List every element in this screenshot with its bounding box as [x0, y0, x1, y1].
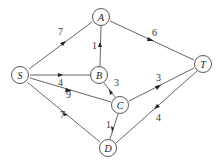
weight-t-d: 4: [156, 112, 161, 123]
node-s: S: [12, 67, 29, 84]
weight-c-d: 1: [106, 119, 111, 130]
edges: 7 4 9 7 1 6 3 1 3 4: [27, 21, 197, 143]
network-diagram: 7 4 9 7 1 6 3 1 3 4: [0, 0, 221, 161]
weight-s-d: 7: [60, 109, 65, 120]
weight-a-t: 6: [152, 27, 157, 38]
node-a: A: [93, 9, 110, 26]
node-label-c: C: [117, 100, 124, 111]
edge-c-t: [129, 68, 194, 101]
node-d: D: [100, 140, 117, 157]
weight-s-c: 9: [66, 89, 71, 100]
node-label-b: B: [96, 70, 102, 81]
weight-s-a: 7: [58, 26, 63, 37]
node-b: B: [91, 67, 108, 84]
node-label-s: S: [18, 70, 23, 81]
weight-c-b: 3: [114, 77, 119, 88]
node-t: T: [195, 56, 212, 73]
arrow-icon: [155, 85, 161, 90]
node-label-a: A: [97, 12, 105, 23]
weight-b-a: 1: [92, 40, 97, 51]
weight-c-t: 3: [156, 72, 161, 83]
node-c: C: [112, 97, 129, 114]
node-label-d: D: [103, 143, 112, 154]
arrow-icon: [98, 42, 102, 47]
